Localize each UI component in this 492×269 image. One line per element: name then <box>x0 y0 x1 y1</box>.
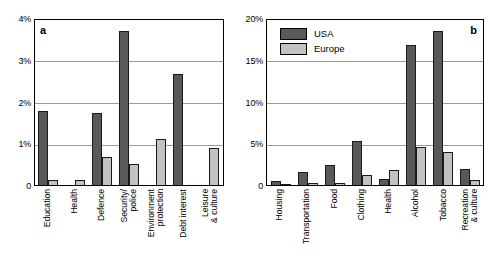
y-axis-tick-label: 4% <box>18 15 31 24</box>
bar-group <box>116 20 143 185</box>
category-label: Clothing <box>348 189 375 221</box>
bar-europe <box>156 139 166 185</box>
category-label-line: & culture <box>470 189 479 231</box>
bar-group <box>402 20 429 185</box>
figure-root: 01%2%3%4% a EducationHealthDefenceSecuri… <box>0 0 492 269</box>
bar-usa <box>433 31 443 185</box>
bar-group <box>348 20 375 185</box>
y-axis-tick-label: 0 <box>26 182 31 191</box>
category-label: Housing <box>266 189 293 221</box>
bar-group <box>196 20 223 185</box>
bar-usa <box>38 111 48 185</box>
bar-group <box>142 20 169 185</box>
category-label: Alcohol <box>402 189 429 217</box>
category-label-line: Alcohol <box>411 189 420 217</box>
y-axis-labels-b: 05%10%15%20% <box>232 0 266 269</box>
category-label: Environmentprotection <box>143 189 170 237</box>
bar-europe <box>389 170 399 185</box>
bar-usa <box>460 169 470 185</box>
y-axis-tick-label: 3% <box>18 56 31 65</box>
bar-europe <box>362 175 372 185</box>
category-labels-b: HousingTransportationFoodClothingHealthA… <box>266 189 484 267</box>
bar-group <box>294 20 321 185</box>
category-label: Defence <box>88 189 115 221</box>
category-label: Food <box>321 189 348 209</box>
bar-usa <box>379 179 389 185</box>
bar-group <box>62 20 89 185</box>
bar-usa <box>352 141 362 185</box>
category-label: Health <box>375 189 402 214</box>
category-label-line: protection <box>156 189 165 237</box>
category-label-line: Debt interest <box>179 189 188 238</box>
y-axis-tick-label: 20% <box>246 15 263 24</box>
bar-group <box>169 20 196 185</box>
category-label-line: Clothing <box>357 189 366 221</box>
category-label-line: Food <box>330 189 339 209</box>
bar-group <box>456 20 483 185</box>
category-label-line: Education <box>43 189 52 227</box>
y-axis-tick-label: 2% <box>18 98 31 107</box>
category-label-line: Tobacco <box>439 189 448 221</box>
y-axis-tick-label: 5% <box>250 140 263 149</box>
category-label-line: Housing <box>275 189 284 221</box>
bar-group <box>429 20 456 185</box>
y-axis-tick-label: 15% <box>246 56 263 65</box>
bar-europe <box>335 183 345 185</box>
bar-groups-a <box>35 20 223 185</box>
bar-group <box>375 20 402 185</box>
category-label-line: Health <box>384 189 393 214</box>
chart-panel-a: 01%2%3%4% a EducationHealthDefenceSecuri… <box>0 0 232 269</box>
plot-area-b: b USA Europe <box>266 19 484 186</box>
bar-europe <box>308 183 318 185</box>
category-label: Health <box>61 189 88 214</box>
bar-group <box>35 20 62 185</box>
bar-europe <box>470 180 480 185</box>
category-label: Leisure& culture <box>197 189 224 223</box>
bar-europe <box>416 147 426 185</box>
bar-usa <box>406 45 416 185</box>
y-axis-tick-label: 0 <box>258 182 263 191</box>
category-label: Security/police <box>115 189 142 222</box>
y-axis-tick-label: 1% <box>18 140 31 149</box>
category-label-line: Health <box>70 189 79 214</box>
bar-usa <box>119 31 129 185</box>
category-labels-a: EducationHealthDefenceSecurity/policeEnv… <box>34 189 224 267</box>
bar-europe <box>443 152 453 185</box>
chart-panel-b: 05%10%15%20% b USA Europe HousingTranspo… <box>232 0 492 269</box>
bar-usa <box>92 113 102 185</box>
bar-usa <box>173 74 183 185</box>
bar-groups-b <box>267 20 483 185</box>
bar-europe <box>281 184 291 185</box>
category-label-line: Transportation <box>302 189 311 244</box>
bar-europe <box>209 148 219 185</box>
plot-area-a: a <box>34 19 224 186</box>
category-label-line: police <box>129 189 138 222</box>
bar-usa <box>298 172 308 185</box>
bar-europe <box>48 180 58 185</box>
category-label-line: Defence <box>97 189 106 221</box>
category-label: Transportation <box>293 189 320 244</box>
y-axis-labels-a: 01%2%3%4% <box>0 0 34 269</box>
category-label: Recreation& culture <box>457 189 484 231</box>
bar-group <box>321 20 348 185</box>
y-axis-tick-label: 10% <box>246 98 263 107</box>
bar-usa <box>271 181 281 185</box>
category-label: Debt interest <box>170 189 197 238</box>
bar-group <box>267 20 294 185</box>
bar-group <box>89 20 116 185</box>
category-label: Education <box>34 189 61 227</box>
category-label: Tobacco <box>430 189 457 221</box>
bar-europe <box>75 180 85 185</box>
bar-usa <box>325 165 335 185</box>
bar-europe <box>129 164 139 185</box>
bar-europe <box>102 157 112 185</box>
category-label-line: & culture <box>210 189 219 223</box>
